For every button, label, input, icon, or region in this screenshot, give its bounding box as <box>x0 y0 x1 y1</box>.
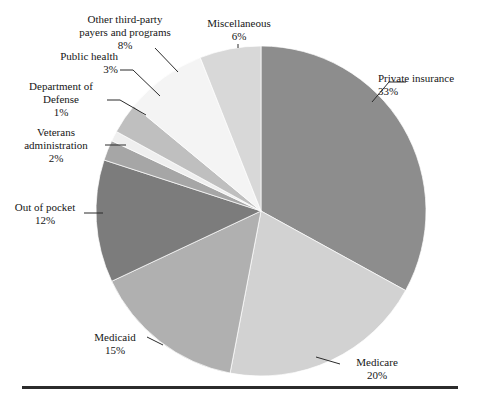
label-other-third-party-text2: payers and programs <box>79 26 171 38</box>
pie-slices <box>96 46 426 376</box>
label-out-of-pocket: Out of pocket 12% <box>6 201 84 227</box>
label-medicaid-text: Medicaid <box>94 331 136 343</box>
label-department-of-defense: Department of Defense 1% <box>17 80 105 119</box>
label-private-insurance-pct: 33% <box>378 85 454 98</box>
label-veterans-administration: Veterans administration 2% <box>10 126 102 165</box>
label-private-insurance-text: Private insurance <box>378 72 454 84</box>
label-medicaid-pct: 15% <box>84 344 146 357</box>
label-department-of-defense-text1: Department of <box>29 80 93 92</box>
label-medicare: Medicare 20% <box>345 356 409 382</box>
label-medicaid: Medicaid 15% <box>84 331 146 357</box>
label-other-third-party-text1: Other third-party <box>88 13 163 25</box>
label-department-of-defense-text2: Defense <box>43 93 79 105</box>
chart-page: Private insurance 33% Miscellaneous 6% O… <box>0 0 482 399</box>
label-private-insurance: Private insurance 33% <box>378 72 454 98</box>
label-miscellaneous-text: Miscellaneous <box>207 17 271 29</box>
label-medicare-pct: 20% <box>345 369 409 382</box>
label-miscellaneous: Miscellaneous 6% <box>194 17 284 43</box>
label-department-of-defense-pct: 1% <box>17 106 105 119</box>
label-public-health-text: Public health <box>60 50 118 62</box>
label-other-third-party: Other third-party payers and programs 8% <box>60 13 190 52</box>
label-veterans-administration-pct: 2% <box>10 152 102 165</box>
label-public-health-pct: 3% <box>40 63 118 76</box>
label-out-of-pocket-text: Out of pocket <box>15 201 75 213</box>
label-miscellaneous-pct: 6% <box>194 30 284 43</box>
label-out-of-pocket-pct: 12% <box>6 214 84 227</box>
bottom-divider-rule <box>22 386 458 389</box>
label-medicare-text: Medicare <box>356 356 398 368</box>
label-public-health: Public health 3% <box>40 50 118 76</box>
label-veterans-administration-text2: administration <box>24 139 88 151</box>
label-veterans-administration-text1: Veterans <box>37 126 75 138</box>
